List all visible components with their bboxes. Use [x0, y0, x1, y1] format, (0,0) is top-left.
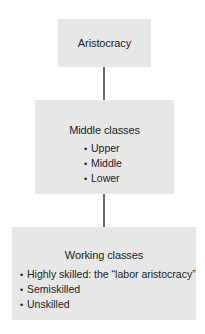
- middle-classes-list: Upper Middle Lower: [84, 141, 174, 186]
- list-item-middle: Middle: [84, 156, 174, 171]
- connector-aristocracy-middle: [103, 67, 105, 100]
- list-item-lower: Lower: [84, 171, 174, 186]
- list-item-semiskilled: Semiskilled: [20, 282, 196, 297]
- list-item-upper: Upper: [84, 141, 174, 156]
- list-item-unskilled: Unskilled: [20, 297, 196, 312]
- working-classes-list: Highly skilled: the “labor aristocracy” …: [20, 267, 196, 312]
- aristocracy-box: Aristocracy: [58, 19, 151, 67]
- middle-classes-title: Middle classes: [35, 123, 174, 137]
- list-item-highly-skilled: Highly skilled: the “labor aristocracy”: [20, 267, 196, 282]
- aristocracy-title: Aristocracy: [58, 19, 151, 67]
- connector-middle-working: [103, 194, 105, 227]
- working-classes-box: Working classes Highly skilled: the “lab…: [12, 227, 196, 320]
- working-classes-title: Working classes: [12, 248, 196, 262]
- middle-classes-box: Middle classes Upper Middle Lower: [35, 100, 174, 194]
